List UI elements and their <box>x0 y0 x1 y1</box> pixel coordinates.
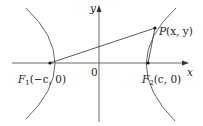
p-coords: (x, y) <box>166 25 193 37</box>
origin-label: 0 <box>91 66 98 78</box>
y-axis-label: y <box>89 2 97 14</box>
focus-f2-label: F2(c, 0) <box>141 73 181 87</box>
hyperbola-diagram: y x 0 F1(−c, 0) F2(c, 0) P(x, y) <box>0 0 203 126</box>
x-axis-arrow-icon <box>182 61 189 66</box>
y-axis-arrow-icon <box>97 5 102 12</box>
f2-coords: (c, 0) <box>154 73 181 85</box>
point-p <box>153 26 156 29</box>
focus-f1-label: F1(−c, 0) <box>17 73 66 87</box>
f1-coords: (−c, 0) <box>30 73 66 85</box>
focus-f1-point <box>48 61 51 64</box>
y-axis <box>97 5 102 122</box>
x-axis <box>12 61 189 66</box>
segment-f1-p <box>50 28 155 63</box>
point-p-label: P(x, y) <box>158 25 193 37</box>
x-axis-label: x <box>187 66 193 78</box>
focus-f2-point <box>146 61 149 64</box>
